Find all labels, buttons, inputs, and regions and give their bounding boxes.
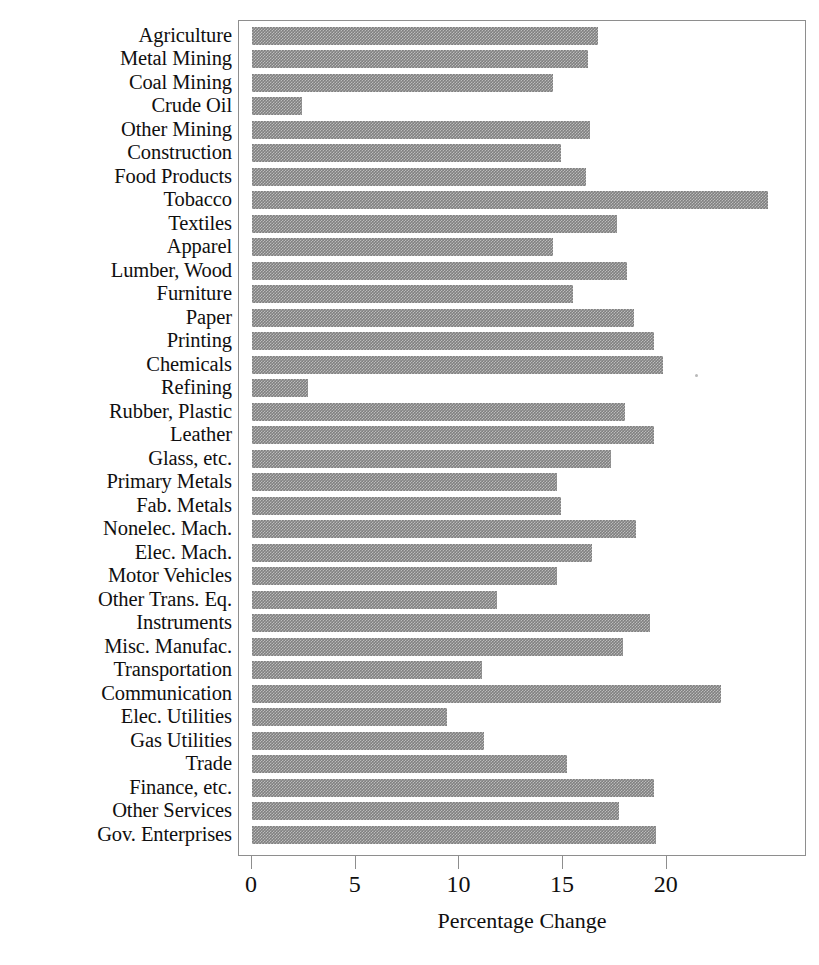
- category-label: Misc. Manufac.: [0, 636, 232, 657]
- category-label: Coal Mining: [0, 72, 232, 93]
- category-label: Elec. Mach.: [0, 542, 232, 563]
- category-label: Other Services: [0, 800, 232, 821]
- bar: [252, 779, 654, 797]
- x-tick-mark: [562, 856, 563, 869]
- bar: [252, 285, 573, 303]
- bar: [252, 191, 768, 209]
- category-label: Metal Mining: [0, 48, 232, 69]
- bar: [252, 802, 619, 820]
- bar: [252, 309, 634, 327]
- category-label: Lumber, Wood: [0, 260, 232, 281]
- bar: [252, 27, 598, 45]
- category-label: Tobacco: [0, 189, 232, 210]
- category-label: Finance, etc.: [0, 777, 232, 798]
- category-label: Rubber, Plastic: [0, 401, 232, 422]
- bar: [252, 168, 586, 186]
- category-label: Instruments: [0, 612, 232, 633]
- x-tick-mark: [666, 856, 667, 869]
- bar: [252, 473, 557, 491]
- x-tick-label: 20: [654, 871, 678, 897]
- plot-area: [238, 20, 806, 856]
- category-label: Trade: [0, 753, 232, 774]
- category-label: Communication: [0, 683, 232, 704]
- bar: [252, 403, 625, 421]
- bar: [252, 121, 590, 139]
- x-tick-label: 0: [245, 871, 257, 897]
- category-label: Construction: [0, 142, 232, 163]
- bar: [252, 544, 592, 562]
- category-label: Other Trans. Eq.: [0, 589, 232, 610]
- bar: [252, 262, 627, 280]
- category-label: Refining: [0, 377, 232, 398]
- x-axis: 05101520: [238, 856, 806, 916]
- category-label: Nonelec. Mach.: [0, 518, 232, 539]
- category-label: Paper: [0, 307, 232, 328]
- category-label: Glass, etc.: [0, 448, 232, 469]
- bar: [252, 755, 567, 773]
- bar: [252, 708, 447, 726]
- category-label: Other Mining: [0, 119, 232, 140]
- category-label: Motor Vehicles: [0, 565, 232, 586]
- category-label: Apparel: [0, 236, 232, 257]
- bar: [252, 661, 482, 679]
- bar: [252, 638, 623, 656]
- x-tick-mark: [251, 856, 252, 869]
- bar: [252, 520, 636, 538]
- bar: [252, 826, 656, 844]
- category-label: Food Products: [0, 166, 232, 187]
- category-label: Crude Oil: [0, 95, 232, 116]
- x-axis-title: Percentage Change: [238, 908, 806, 934]
- bar-chart: AgricultureMetal MiningCoal MiningCrude …: [0, 0, 819, 965]
- category-label: Transportation: [0, 659, 232, 680]
- category-label: Primary Metals: [0, 471, 232, 492]
- category-label: Furniture: [0, 283, 232, 304]
- bar: [252, 426, 654, 444]
- bar: [252, 97, 302, 115]
- bar: [252, 732, 484, 750]
- category-label: Gas Utilities: [0, 730, 232, 751]
- bar: [252, 379, 308, 397]
- print-speck-artifact: [695, 374, 698, 377]
- x-tick-label: 5: [349, 871, 361, 897]
- bar: [252, 614, 650, 632]
- category-axis-labels: AgricultureMetal MiningCoal MiningCrude …: [0, 21, 232, 855]
- bar: [252, 685, 721, 703]
- bar: [252, 591, 497, 609]
- bar: [252, 356, 663, 374]
- category-label: Chemicals: [0, 354, 232, 375]
- category-label: Leather: [0, 424, 232, 445]
- bar: [252, 567, 557, 585]
- x-tick-mark: [458, 856, 459, 869]
- bar: [252, 50, 588, 68]
- category-label: Agriculture: [0, 25, 232, 46]
- bar: [252, 332, 654, 350]
- category-label: Elec. Utilities: [0, 706, 232, 727]
- bar: [252, 74, 553, 92]
- bar: [252, 450, 611, 468]
- category-label: Fab. Metals: [0, 495, 232, 516]
- bars-layer: [239, 21, 805, 855]
- x-tick-mark: [355, 856, 356, 869]
- bar: [252, 215, 617, 233]
- category-label: Textiles: [0, 213, 232, 234]
- bar: [252, 497, 561, 515]
- x-tick-label: 10: [446, 871, 470, 897]
- bar: [252, 144, 561, 162]
- category-label: Printing: [0, 330, 232, 351]
- bar: [252, 238, 553, 256]
- category-label: Gov. Enterprises: [0, 824, 232, 845]
- x-tick-label: 15: [550, 871, 574, 897]
